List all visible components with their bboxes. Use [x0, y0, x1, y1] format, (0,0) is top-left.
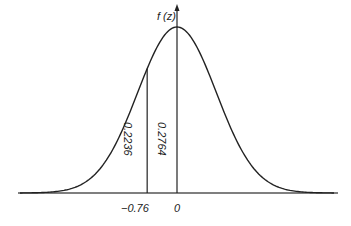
tick-zero: 0 [174, 202, 181, 214]
tick-neg076: −0.76 [121, 202, 150, 214]
normal-curve-chart: f (z) −0.76 0 0.2236 0.2764 [0, 0, 351, 226]
area-label-02236: 0.2236 [122, 122, 134, 157]
y-axis-label: f (z) [157, 10, 176, 22]
area-label-02764: 0.2764 [156, 122, 168, 156]
